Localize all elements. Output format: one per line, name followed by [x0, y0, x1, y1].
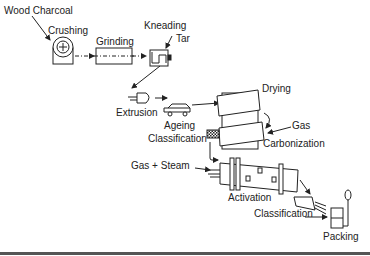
label-gas-steam: Gas + Steam: [131, 160, 190, 171]
label-wood-charcoal: Wood Charcoal: [4, 5, 73, 16]
label-ageing: Ageing: [164, 120, 195, 131]
extruder-icon: [128, 93, 167, 103]
label-tar: Tar: [176, 33, 190, 44]
label-classification-2: Classification: [254, 208, 313, 219]
label-kneading: Kneading: [144, 20, 186, 31]
ageing-cart-icon: [164, 103, 219, 116]
label-carbonization: Carbonization: [263, 138, 325, 149]
kneader-icon: [150, 50, 171, 66]
activation-kiln-icon: [208, 158, 310, 194]
label-packing: Packing: [323, 231, 359, 242]
crusher-icon: [53, 37, 73, 64]
label-classification-1: Classification: [148, 133, 207, 144]
label-activation: Activation: [228, 192, 271, 203]
label-drying: Drying: [262, 83, 291, 94]
label-gas: Gas: [292, 120, 310, 131]
label-extrusion: Extrusion: [116, 107, 158, 118]
label-grinding: Grinding: [96, 36, 134, 47]
bottom-rule: [0, 252, 370, 255]
label-crushing: Crushing: [48, 25, 88, 36]
